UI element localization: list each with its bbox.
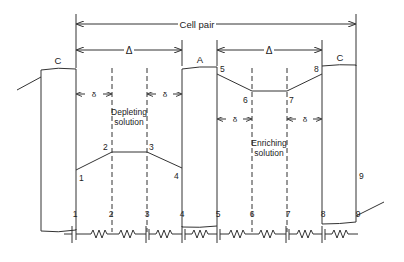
circuit-node-8: 8 <box>321 209 326 219</box>
circuit-node-3: 3 <box>145 209 150 219</box>
point-1: 1 <box>79 173 84 183</box>
point-7: 7 <box>289 95 294 105</box>
depleting-profile <box>76 152 182 170</box>
point-4: 4 <box>174 171 179 181</box>
membrane-label-middle: A <box>197 54 204 65</box>
enriching-profile <box>217 74 322 91</box>
circuit-node-5: 5 <box>216 209 221 219</box>
depleting-label-2: solution <box>114 117 144 127</box>
delta-small-label: δ <box>303 115 308 124</box>
point-5: 5 <box>220 64 225 74</box>
delta-small-label: δ <box>233 115 238 124</box>
depleting-label-1: Depleting <box>111 107 147 117</box>
circuit-node-7: 7 <box>286 209 291 219</box>
membrane-label-left: C <box>55 55 62 66</box>
circuit-node-2: 2 <box>109 209 114 219</box>
delta-small-label: δ <box>163 90 168 99</box>
left-lead-line <box>17 77 41 90</box>
membrane-label-right: C <box>337 52 344 63</box>
point-2: 2 <box>103 142 108 152</box>
cell-pair-label: Cell pair <box>180 19 215 30</box>
circuit-node-1: 1 <box>73 209 78 219</box>
enriching-label-1: Enriching <box>251 138 287 148</box>
delta-label-right: Δ <box>266 45 273 56</box>
enriching-label-2: solution <box>254 148 284 158</box>
point-8: 8 <box>314 64 319 74</box>
delta-small-label: δ <box>92 90 97 99</box>
point-3: 3 <box>149 142 154 152</box>
point-9: 9 <box>359 171 364 181</box>
membrane-left-c <box>41 68 76 232</box>
electrodialysis-diagram: Cell pair Δ Δ C A C δ δ δ δ Depleting so… <box>0 0 404 262</box>
circuit-node-9: 9 <box>356 209 361 219</box>
circuit-node-6: 6 <box>250 209 255 219</box>
equivalent-circuit <box>64 226 358 243</box>
membrane-right-c <box>322 65 356 224</box>
delta-label-left: Δ <box>126 45 133 56</box>
circuit-node-4: 4 <box>180 209 185 219</box>
point-6: 6 <box>243 95 248 105</box>
membrane-middle-a <box>182 67 217 228</box>
cell-pair-dimension <box>76 14 356 68</box>
